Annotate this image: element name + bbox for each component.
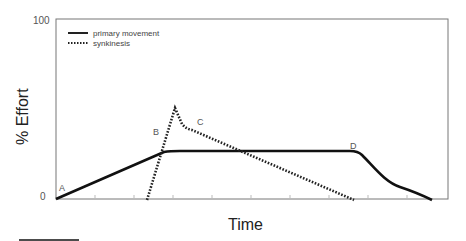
synkinesis-line <box>147 108 354 200</box>
label-b: B <box>153 127 159 137</box>
label-c: C <box>197 117 204 127</box>
y-tick-0: 0 <box>40 191 46 202</box>
label-a: A <box>59 183 65 193</box>
label-d: D <box>350 141 357 151</box>
y-axis-title: % Effort <box>14 88 31 145</box>
x-axis-title: Time <box>228 216 263 233</box>
y-tick-100: 100 <box>33 15 50 26</box>
legend-synkinesis-label: synkinesis <box>93 39 130 48</box>
x-ticks <box>95 195 407 199</box>
effort-chart: 100 0 % Effort Time primary movement syn… <box>0 0 466 241</box>
legend: primary movement synkinesis <box>68 29 160 48</box>
legend-primary-label: primary movement <box>93 29 160 38</box>
primary-movement-line <box>56 151 432 200</box>
